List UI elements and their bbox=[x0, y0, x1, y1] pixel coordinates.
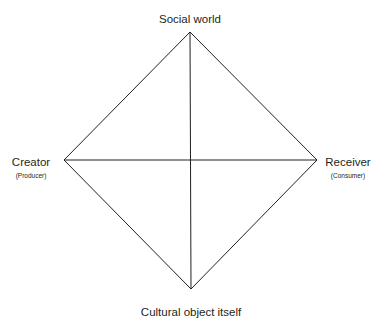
node-label: Cultural object itself bbox=[141, 306, 241, 318]
node-creator: Creator (Producer) bbox=[12, 152, 50, 179]
node-label: Creator bbox=[12, 156, 50, 168]
node-cultural-object: Cultural object itself bbox=[141, 302, 241, 320]
edge-left-top bbox=[64, 32, 190, 160]
edge-bottom-left bbox=[64, 160, 191, 289]
node-label: Receiver bbox=[325, 156, 370, 168]
diamond-edges bbox=[64, 32, 317, 289]
edge-right-bottom bbox=[191, 160, 317, 289]
edge-top-right bbox=[190, 32, 317, 160]
node-sublabel: (Consumer) bbox=[325, 172, 370, 179]
node-receiver: Receiver (Consumer) bbox=[325, 152, 370, 179]
cultural-diamond-diagram bbox=[0, 0, 380, 329]
node-label: Social world bbox=[159, 13, 221, 25]
node-sublabel: (Producer) bbox=[12, 172, 50, 179]
node-social-world: Social world bbox=[159, 9, 221, 27]
